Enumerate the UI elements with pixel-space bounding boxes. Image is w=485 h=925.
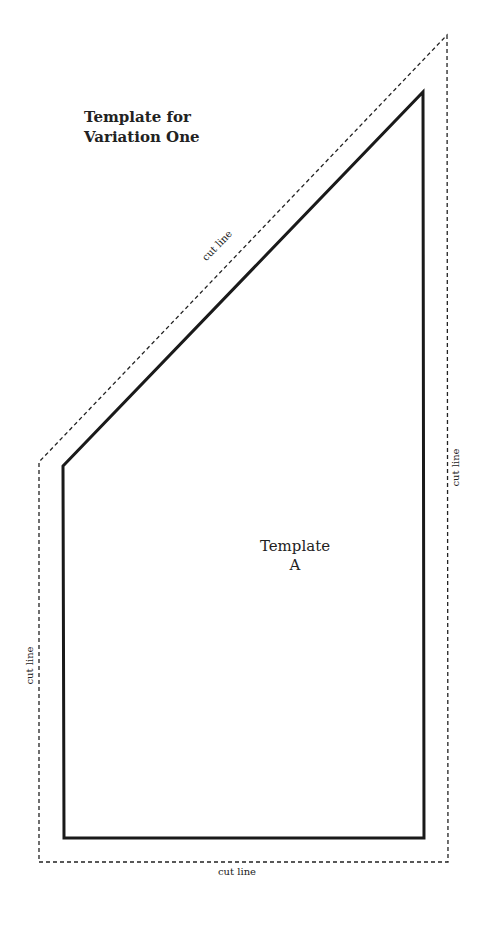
template-a-outline <box>63 92 424 838</box>
title-line-2: Variation One <box>84 127 200 147</box>
diagram-title: Template for Variation One <box>84 107 200 147</box>
template-label-line-1: Template <box>240 537 350 556</box>
title-line-1: Template for <box>84 107 200 127</box>
template-diagram <box>0 0 485 925</box>
cut-line-label-right: cut line <box>450 449 461 487</box>
template-a-label: Template A <box>240 537 350 575</box>
cut-line-outline <box>39 35 448 862</box>
cut-line-label-left: cut line <box>24 647 35 685</box>
template-label-line-2: A <box>240 556 350 575</box>
cut-line-label-bottom: cut line <box>218 866 256 877</box>
